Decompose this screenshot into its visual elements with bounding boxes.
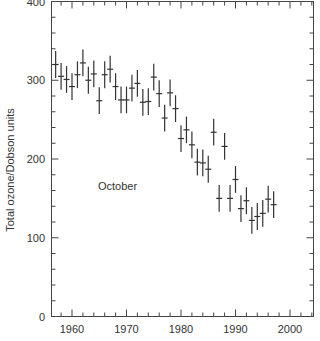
data-point — [58, 63, 64, 90]
data-point — [233, 166, 239, 193]
data-point — [107, 56, 113, 83]
data-point — [216, 185, 222, 212]
y-tick-label: 400 — [27, 0, 45, 8]
data-point — [145, 88, 151, 115]
y-tick-label: 300 — [27, 74, 45, 86]
data-point — [173, 95, 179, 122]
data-point — [74, 61, 80, 88]
data-point — [211, 119, 217, 146]
data-point — [69, 73, 75, 100]
data-point — [205, 156, 211, 183]
ozone-chart: 0100200300400 19601970198019902000 Total… — [0, 0, 320, 341]
y-tick-labels: 0100200300400 — [27, 0, 45, 323]
data-point — [80, 50, 86, 77]
data-point — [124, 87, 130, 114]
data-point — [183, 116, 189, 143]
data-point — [178, 125, 184, 152]
data-point — [265, 186, 271, 213]
data-point — [189, 131, 195, 158]
data-point — [222, 133, 228, 160]
data-point — [113, 73, 119, 100]
data-points — [53, 50, 277, 234]
data-point — [254, 203, 260, 230]
x-tick-label: 1960 — [60, 323, 84, 335]
data-point — [156, 80, 162, 107]
data-point — [118, 87, 124, 114]
data-point — [85, 67, 91, 94]
data-point — [227, 185, 233, 212]
x-tick-label: 1990 — [223, 323, 247, 335]
x-tick-labels: 19601970198019902000 — [60, 323, 302, 335]
data-point — [129, 75, 135, 102]
data-point — [53, 51, 59, 78]
axis-ticks — [52, 2, 314, 317]
data-point — [162, 105, 168, 132]
data-point — [134, 70, 140, 97]
data-point — [140, 89, 146, 116]
x-tick-label: 1970 — [114, 323, 138, 335]
data-point — [243, 187, 249, 214]
data-point — [167, 79, 173, 106]
data-point — [151, 64, 157, 91]
data-point — [194, 149, 200, 176]
plot-frame — [52, 2, 314, 317]
y-tick-label: 0 — [39, 311, 45, 323]
x-tick-label: 2000 — [278, 323, 302, 335]
data-point — [238, 195, 244, 222]
y-axis-title: Total ozone/Dobson units — [4, 108, 16, 232]
data-point — [64, 66, 70, 93]
month-annotation: October — [98, 180, 137, 192]
data-point — [91, 61, 97, 88]
data-point — [271, 191, 277, 218]
y-tick-label: 200 — [27, 153, 45, 165]
x-tick-label: 1980 — [169, 323, 193, 335]
data-point — [249, 207, 255, 234]
data-point — [102, 61, 108, 88]
y-tick-label: 100 — [27, 232, 45, 244]
data-point — [260, 200, 266, 227]
data-point — [96, 87, 102, 114]
data-point — [200, 150, 206, 177]
